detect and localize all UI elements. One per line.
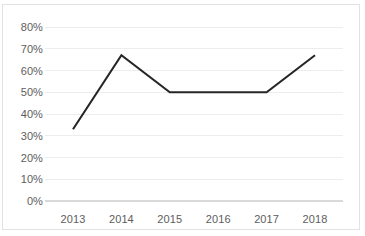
x-axis-tick-label: 2013 (61, 213, 86, 225)
x-axis-tick-label: 2018 (303, 213, 328, 225)
x-axis-tick-label: 2016 (206, 213, 231, 225)
x-axis-tick-label: 2014 (109, 213, 134, 225)
plot-area: 0%10%20%30%40%50%60%70%80% 2013201420152… (3, 5, 361, 231)
chart-frame: 0%10%20%30%40%50%60%70%80% 2013201420152… (2, 4, 360, 230)
x-axis-tick-label: 2015 (157, 213, 182, 225)
x-axis-labels: 201320142015201620172018 (3, 5, 361, 231)
x-axis-tick-label: 2017 (254, 213, 279, 225)
